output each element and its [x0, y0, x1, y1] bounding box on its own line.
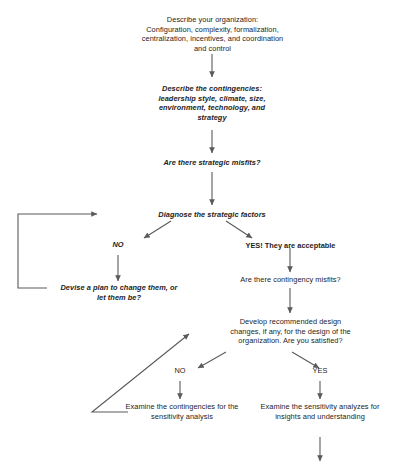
- node-examine-sensitivity: Examine the sensitivity analyzes for ins…: [255, 402, 385, 421]
- arrow-diagnose-to-no: [144, 221, 171, 238]
- label-branch-yes-develop: YES: [302, 366, 338, 376]
- node-describe-contingencies: Describe the contingencies: leadership s…: [122, 84, 302, 123]
- node-devise-plan: Devise a plan to change them, or let the…: [44, 283, 194, 302]
- flowchart-connectors: [0, 0, 420, 469]
- label-branch-no-strategic: NO: [98, 240, 138, 250]
- node-diagnose-strategic-factors: Diagnose the strategic factors: [132, 210, 292, 220]
- arrow-develop-to-no: [198, 352, 226, 368]
- arrow-feedback-devise-to-diagnose: [18, 214, 97, 288]
- node-examine-contingencies: Examine the contingencies for the sensit…: [118, 402, 246, 421]
- flowchart-diagram: Describe your organization: Configuratio…: [0, 0, 420, 469]
- label-branch-yes-strategic: YES! They are acceptable: [233, 241, 348, 251]
- node-develop-recommended-changes: Develop recommended design changes, if a…: [222, 317, 359, 346]
- arrow-diagnose-to-yes: [226, 221, 252, 238]
- node-contingency-misfits-question: Are there contingency misfits?: [228, 275, 353, 285]
- node-describe-organization: Describe your organization: Configuratio…: [110, 15, 315, 54]
- node-strategic-misfits-question: Are there strategic misfits?: [137, 158, 287, 168]
- label-branch-no-develop: NO: [162, 366, 198, 376]
